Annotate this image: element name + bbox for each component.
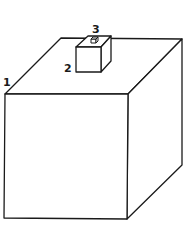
large-cube-front-face [4, 94, 128, 219]
label-medium-cube: 2 [64, 63, 72, 74]
small-cube [91, 37, 98, 43]
label-small-cube: 3 [92, 24, 100, 35]
medium-cube-front-face [76, 47, 101, 72]
small-cube-front-face [91, 39, 96, 43]
label-large-cube: 1 [3, 77, 11, 88]
